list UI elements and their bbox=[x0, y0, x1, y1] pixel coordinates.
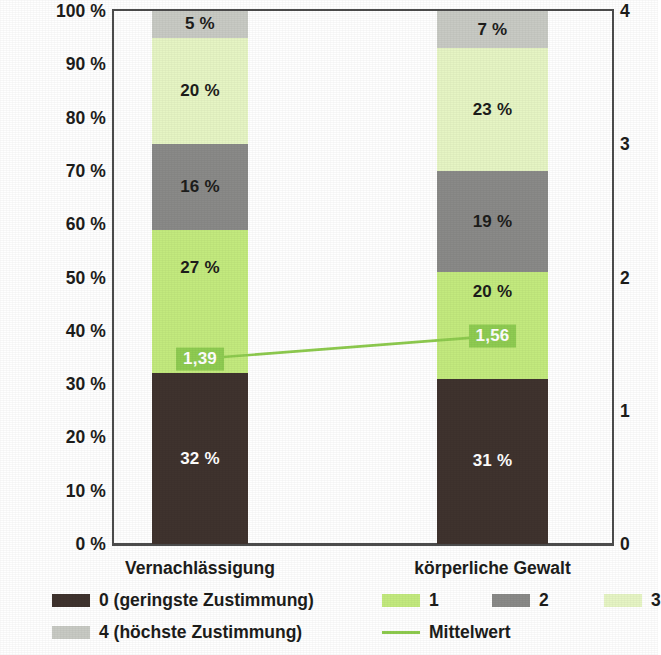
left-axis-tick: 90 % bbox=[66, 54, 106, 75]
right-axis-tick: 2 bbox=[620, 267, 630, 288]
bar-segment-value-label: 23 % bbox=[473, 100, 513, 120]
left-axis-tick: 30 % bbox=[66, 374, 106, 395]
right-axis-tick: 1 bbox=[620, 400, 630, 421]
legend-label: 0 (geringste Zustimmung) bbox=[99, 590, 314, 611]
bar-segment-value-label: 32 % bbox=[180, 449, 220, 469]
category-label: körperliche Gewalt bbox=[414, 558, 571, 579]
bar-segment[interactable]: 7 % bbox=[437, 11, 548, 48]
bar-segment-value-label: 20 % bbox=[180, 81, 220, 101]
bar-segment-value-label: 27 % bbox=[180, 258, 220, 278]
legend-color-swatch bbox=[52, 626, 90, 639]
legend-line-marker bbox=[382, 631, 420, 634]
bar-segment-value-label: 31 % bbox=[473, 451, 513, 471]
left-axis-tick: 40 % bbox=[66, 320, 106, 341]
bar-segment[interactable]: 5 % bbox=[152, 11, 248, 38]
left-axis-tick: 70 % bbox=[66, 160, 106, 181]
legend-item[interactable]: Mittelwert bbox=[382, 620, 511, 644]
left-axis-percent: 0 %10 %20 %30 %40 %50 %60 %70 %80 %90 %1… bbox=[0, 0, 106, 655]
bar-segment-value-label: 7 % bbox=[478, 20, 508, 40]
mean-value-label: 1,56 bbox=[469, 325, 517, 348]
category-label: Vernachlässigung bbox=[125, 558, 275, 579]
mean-value-label: 1,39 bbox=[176, 347, 224, 370]
legend-item[interactable]: 1 bbox=[382, 588, 439, 612]
left-axis-tick: 60 % bbox=[66, 214, 106, 235]
legend-color-swatch bbox=[604, 594, 642, 607]
bar-segment[interactable]: 16 % bbox=[152, 144, 248, 229]
bar-segment[interactable]: 20 % bbox=[152, 38, 248, 145]
bar-segment[interactable]: 32 % bbox=[152, 373, 248, 544]
bar-column[interactable]: 31 %20 %19 %23 %7 % bbox=[437, 11, 548, 544]
legend-item[interactable]: 2 bbox=[492, 588, 549, 612]
legend-label: 3 bbox=[651, 590, 661, 611]
bar-segment[interactable]: 19 % bbox=[437, 171, 548, 272]
legend-label: 4 (höchste Zustimmung) bbox=[99, 622, 302, 643]
left-axis-tick: 80 % bbox=[66, 107, 106, 128]
bar-segment-value-label: 16 % bbox=[180, 177, 220, 197]
bar-segment[interactable]: 23 % bbox=[437, 48, 548, 171]
right-axis-tick: 4 bbox=[620, 1, 630, 22]
left-axis-tick: 50 % bbox=[66, 267, 106, 288]
right-axis-tick: 3 bbox=[620, 134, 630, 155]
legend-label: 2 bbox=[539, 590, 549, 611]
bar-column[interactable]: 32 %27 %16 %20 %5 % bbox=[152, 11, 248, 544]
legend-color-swatch bbox=[382, 594, 420, 607]
left-axis-tick: 20 % bbox=[66, 427, 106, 448]
legend-item[interactable]: 0 (geringste Zustimmung) bbox=[52, 588, 314, 612]
bar-segment-value-label: 19 % bbox=[473, 212, 513, 232]
right-axis-tick: 0 bbox=[620, 534, 630, 555]
left-axis-tick: 0 % bbox=[76, 534, 106, 555]
left-axis-tick: 10 % bbox=[66, 480, 106, 501]
legend-color-swatch bbox=[492, 594, 530, 607]
legend-label: 1 bbox=[429, 590, 439, 611]
legend-label: Mittelwert bbox=[429, 622, 511, 643]
legend-item[interactable]: 4 (höchste Zustimmung) bbox=[52, 620, 302, 644]
right-axis-mean-scale: 01234 bbox=[620, 0, 658, 655]
left-axis-tick: 100 % bbox=[56, 1, 106, 22]
legend-item[interactable]: 3 bbox=[604, 588, 661, 612]
bar-segment-value-label: 20 % bbox=[473, 282, 513, 302]
legend-color-swatch bbox=[52, 594, 90, 607]
bar-segment-value-label: 5 % bbox=[185, 14, 215, 34]
bar-segment[interactable]: 31 % bbox=[437, 379, 548, 544]
legend: 0 (geringste Zustimmung)1234 (höchste Zu… bbox=[52, 588, 652, 650]
